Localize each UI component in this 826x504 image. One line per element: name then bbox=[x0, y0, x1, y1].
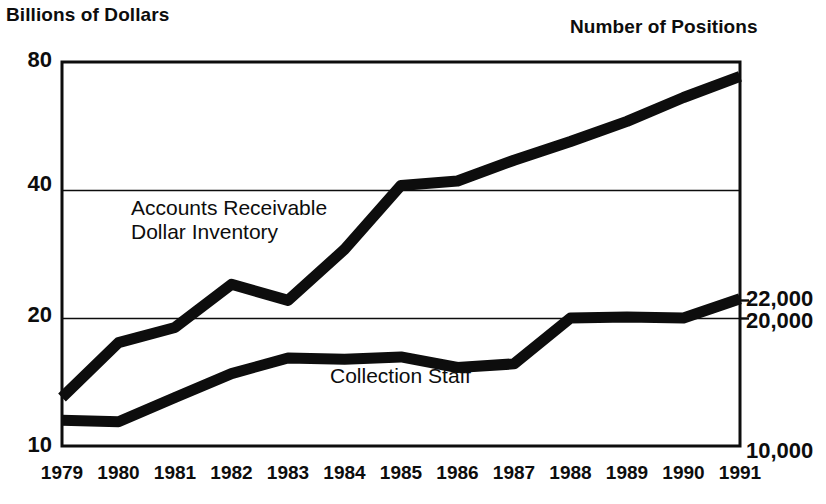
x-axis-tick-1983: 1983 bbox=[267, 462, 309, 484]
series-label-accounts-receivable: Accounts Receivable Dollar Inventory bbox=[131, 196, 327, 245]
x-axis-tick-1982: 1982 bbox=[210, 462, 252, 484]
series-line-collection-staff bbox=[62, 299, 740, 422]
x-axis-tick-1991: 1991 bbox=[719, 462, 761, 484]
x-axis-tick-1990: 1990 bbox=[662, 462, 704, 484]
plot-area bbox=[0, 0, 826, 504]
left-axis-tick-10: 10 bbox=[0, 434, 52, 456]
left-axis-title: Billions of Dollars bbox=[6, 4, 169, 26]
chart-figure: Billions of Dollars Number of Positions … bbox=[0, 0, 826, 504]
x-axis-tick-1986: 1986 bbox=[436, 462, 478, 484]
right-axis-title: Number of Positions bbox=[570, 16, 758, 38]
x-axis-tick-1979: 1979 bbox=[41, 462, 83, 484]
left-axis-tick-80: 80 bbox=[0, 49, 52, 71]
right-axis-tick-20000: 20,000 bbox=[746, 310, 813, 332]
left-axis-tick-20: 20 bbox=[0, 304, 52, 326]
right-axis-tick-10000: 10,000 bbox=[746, 440, 813, 462]
x-axis-tick-1981: 1981 bbox=[154, 462, 196, 484]
x-axis-tick-1985: 1985 bbox=[380, 462, 422, 484]
x-axis-tick-1988: 1988 bbox=[549, 462, 591, 484]
x-axis-tick-1984: 1984 bbox=[323, 462, 365, 484]
series-label-collection-staff: Collection Staff bbox=[330, 364, 471, 388]
right-axis-tick-22000: 22,000 bbox=[746, 288, 813, 310]
x-axis-tick-1989: 1989 bbox=[606, 462, 648, 484]
x-axis-tick-1987: 1987 bbox=[493, 462, 535, 484]
x-axis-tick-1980: 1980 bbox=[97, 462, 139, 484]
left-axis-tick-40: 40 bbox=[0, 173, 52, 195]
